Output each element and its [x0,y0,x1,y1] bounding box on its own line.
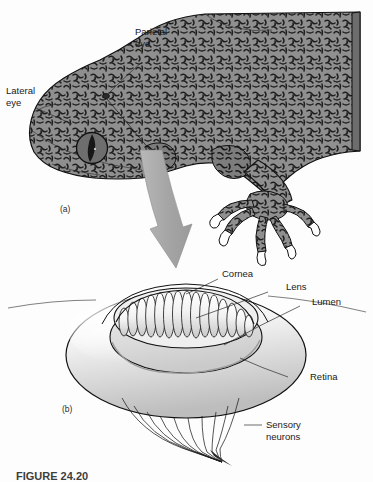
panel-b-parietal-eye: Cornea Lens Lumen Retina Sensory neurons… [8,268,366,466]
panel-a-label: (a) [60,204,71,214]
lens-label: Lens [286,281,307,292]
skin-surface-line-left [8,300,96,308]
parietal-eye-figure: Parietal eye Lateral eye (a) [0,0,373,482]
lateral-eye-label-line1: Lateral [6,85,35,96]
parietal-eye-label-line2: eye [135,38,150,49]
figure-caption: FIGURE 24.20 [16,470,88,482]
gecko-foot [210,191,320,266]
lateral-eye-graphic [77,133,108,164]
panel-b-label: (b) [62,404,73,414]
figure-container: Parietal eye Lateral eye (a) [0,0,373,482]
lens-body [114,288,258,348]
parietal-eye-label-line1: Parietal [135,26,167,37]
gecko-body-outline [30,12,361,196]
sensory-neurons-label-line1: Sensory [266,419,301,430]
gecko-body-cut-edge [352,12,360,151]
cornea-label: Cornea [222,268,254,279]
lateral-eye-label-line2: eye [6,97,21,108]
lumen-label: Lumen [312,296,341,307]
magnification-arrow [140,150,192,268]
sensory-neurons-label-line2: neurons [266,431,301,442]
retina-label: Retina [310,371,338,382]
parietal-eye-graphic [103,93,110,98]
